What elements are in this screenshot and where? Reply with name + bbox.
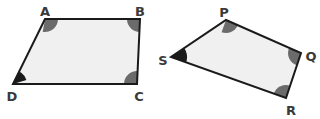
vertex-label-d: D xyxy=(7,89,18,104)
vertex-label-q: Q xyxy=(305,49,316,64)
vertex-label-s: S xyxy=(158,53,167,68)
vertex-label-b: B xyxy=(135,4,145,19)
vertex-label-a: A xyxy=(40,4,50,19)
parallelogram-abcd-body xyxy=(13,19,140,84)
shape-group-parallelogram-abcd: ABCD xyxy=(7,4,145,104)
vertex-label-p: P xyxy=(219,5,229,20)
shape-group-parallelogram-pqrs: PQRS xyxy=(158,5,316,118)
vertex-label-c: C xyxy=(134,89,144,104)
vertex-label-r: R xyxy=(286,103,296,118)
geometry-diagram: ABCD PQRS xyxy=(0,0,320,119)
figure-canvas: ABCD PQRS xyxy=(0,0,320,119)
